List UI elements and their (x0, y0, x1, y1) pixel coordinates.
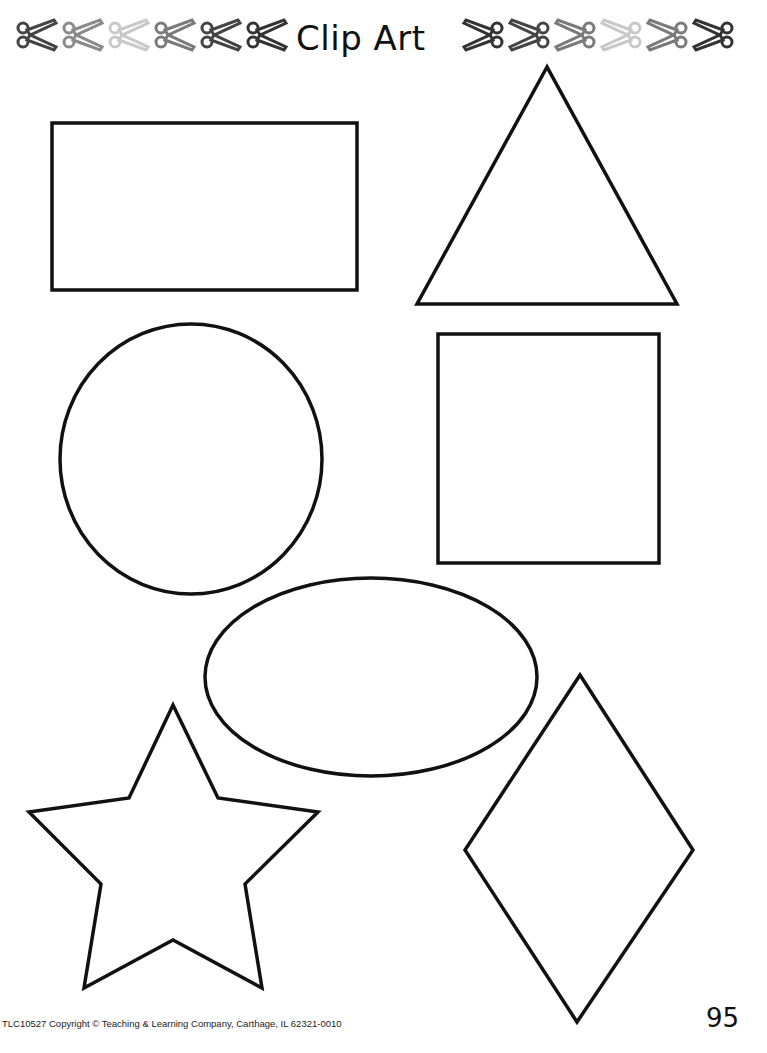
shapes-canvas (0, 0, 767, 1053)
oval-shape (205, 578, 537, 776)
circle-shape (60, 324, 322, 594)
page-number: 95 (706, 1003, 739, 1033)
diamond-shape (465, 675, 693, 1022)
square-shape (438, 334, 659, 563)
star-shape (29, 705, 318, 988)
rectangle-shape (52, 123, 357, 290)
copyright-text: TLC10527 Copyright © Teaching & Learning… (2, 1018, 342, 1029)
triangle-shape (417, 67, 677, 304)
